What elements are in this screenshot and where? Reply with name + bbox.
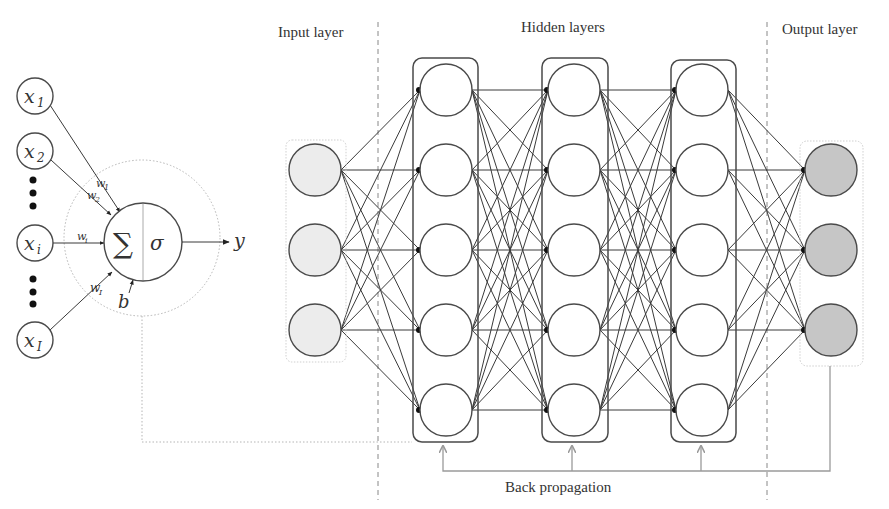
- hidden-3-node-4: [676, 304, 728, 356]
- hidden-1-node-3: [420, 224, 472, 276]
- neuron-body: ∑ σ: [104, 203, 182, 281]
- svg-text:2: 2: [94, 195, 100, 204]
- svg-text:I: I: [98, 288, 103, 297]
- connection-edge: [341, 90, 420, 170]
- hidden-1-node-1: [420, 64, 472, 116]
- ellipsis-dots-lower: [30, 276, 37, 308]
- neural-network-diagram: x 1 x 2 x i x I w: [0, 0, 889, 509]
- svg-text:x: x: [24, 140, 35, 162]
- label-back-propagation: Back propagation: [505, 479, 612, 495]
- label-hidden-layers: Hidden layers: [521, 19, 605, 35]
- svg-text:1: 1: [37, 96, 45, 110]
- hidden-2-node-4: [548, 304, 600, 356]
- hidden-1-node-5: [420, 384, 472, 436]
- back-propagation-path: [443, 366, 830, 471]
- hidden-3-node-1: [676, 64, 728, 116]
- svg-text:x: x: [24, 232, 35, 254]
- edge-x1-w1: [50, 105, 120, 212]
- connection-edge: [341, 90, 420, 330]
- weight-w1: w 1: [96, 177, 109, 192]
- hidden-2-node-5: [548, 384, 600, 436]
- svg-text:2: 2: [36, 151, 45, 165]
- sum-symbol: ∑: [113, 227, 133, 260]
- activation-symbol: σ: [150, 231, 165, 255]
- edge-bias: [129, 280, 133, 293]
- bias-label: b: [118, 291, 130, 312]
- output-y-label: y: [233, 229, 245, 251]
- edge-xI-wI: [50, 272, 112, 330]
- input-node-xI: x I: [17, 322, 53, 358]
- input-node-1: [289, 144, 341, 196]
- svg-text:i: i: [85, 236, 88, 245]
- hidden-2-node-1: [548, 64, 600, 116]
- input-node-3: [289, 304, 341, 356]
- svg-text:i: i: [37, 243, 41, 257]
- hidden-3-node-2: [676, 144, 728, 196]
- input-node-x1: x 1: [17, 78, 53, 114]
- hidden-2-node-2: [548, 144, 600, 196]
- output-node-1: [805, 144, 857, 196]
- hidden-1-node-2: [420, 144, 472, 196]
- hidden-2-node-3: [548, 224, 600, 276]
- svg-text:x: x: [24, 85, 35, 107]
- weight-w2: w 2: [87, 189, 100, 204]
- perceptron: x 1 x 2 x i x I w: [17, 78, 412, 442]
- input-node-xi: x i: [17, 225, 53, 261]
- label-input-layer: Input layer: [278, 24, 343, 40]
- hidden-1-node-4: [420, 304, 472, 356]
- svg-text:x: x: [24, 329, 35, 351]
- output-node-3: [805, 304, 857, 356]
- hidden-3-node-3: [676, 224, 728, 276]
- ellipsis-dots-upper: [30, 177, 37, 210]
- weight-wI: w I: [90, 281, 103, 297]
- weight-wi: w i: [77, 230, 88, 245]
- svg-text:I: I: [36, 340, 42, 354]
- perceptron-to-network-connector: [142, 316, 412, 442]
- connection-edge: [341, 330, 420, 410]
- svg-text:1: 1: [104, 183, 109, 192]
- output-node-2: [805, 224, 857, 276]
- input-node-2: [289, 224, 341, 276]
- label-output-layer: Output layer: [782, 21, 857, 37]
- hidden-3-node-5: [676, 384, 728, 436]
- input-node-x2: x 2: [17, 133, 53, 169]
